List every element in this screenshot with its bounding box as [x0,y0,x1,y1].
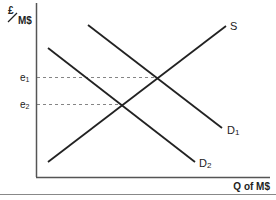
x-axis-label: Q of M$ [233,181,270,192]
s-label: S [230,20,237,32]
d2-label: D2 [199,157,212,170]
e1-label: e1 [20,72,30,83]
y-axis-label-top: £ [8,5,14,16]
d1-label: D1 [227,124,240,137]
e2-label: e2 [20,99,30,110]
supply-curve-s [48,26,226,162]
demand-curve-d1 [88,25,222,128]
supply-demand-diagram: £ M$ e1 e2 S D1 D2 Q of M$ [0,0,276,200]
y-axis-label: £ M$ [8,5,32,26]
y-axis-label-bottom: M$ [18,15,32,26]
